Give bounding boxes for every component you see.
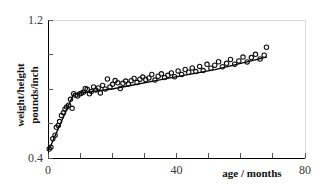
data-point (228, 57, 232, 61)
data-point (176, 69, 180, 73)
y-axis-title-line2: pounds/inch (28, 66, 40, 123)
data-point (187, 70, 191, 74)
data-point (205, 62, 209, 66)
data-point (190, 66, 194, 70)
data-point (224, 61, 228, 65)
y-tick-label: 1.2 (28, 13, 43, 27)
data-point (213, 63, 217, 67)
x-tick-label: 80 (299, 163, 311, 177)
scatter-plot-svg: 04080 0.41.2 age / months weight/height … (0, 0, 320, 191)
plot-area-border (48, 20, 305, 158)
x-axis-ticks (48, 153, 305, 158)
data-point (241, 55, 245, 59)
data-point (237, 59, 241, 63)
data-point (249, 55, 253, 59)
data-point-markers (47, 45, 269, 151)
x-axis-title: age / months (222, 167, 282, 179)
data-point (150, 72, 154, 76)
data-point (197, 64, 201, 68)
data-point (108, 85, 112, 89)
y-axis-title-line1: weight/height (14, 63, 26, 127)
x-tick-label: 40 (171, 163, 183, 177)
data-point (264, 45, 268, 49)
chart-container: 04080 0.41.2 age / months weight/height … (0, 0, 320, 191)
data-point (98, 91, 102, 95)
data-point (159, 72, 163, 76)
data-point (70, 106, 74, 110)
data-point (169, 71, 173, 75)
y-tick-label: 0.4 (28, 151, 43, 165)
data-point (216, 60, 220, 64)
data-point (253, 52, 257, 56)
x-tick-label: 0 (45, 163, 51, 177)
data-point (105, 77, 109, 81)
fit-trend-line (49, 57, 266, 149)
data-point (262, 53, 266, 57)
